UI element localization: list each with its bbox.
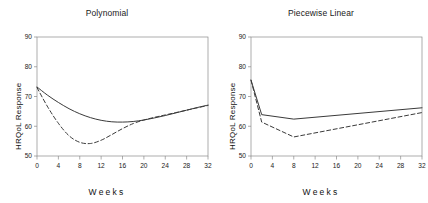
svg-text:12: 12 bbox=[97, 162, 105, 169]
svg-text:12: 12 bbox=[311, 162, 319, 169]
svg-text:16: 16 bbox=[119, 162, 127, 169]
panel-piecewise-linear: Piecewise Linear HRQoL Response 50607080… bbox=[214, 0, 428, 203]
svg-text:28: 28 bbox=[397, 162, 405, 169]
svg-text:4: 4 bbox=[271, 162, 275, 169]
svg-text:60: 60 bbox=[25, 123, 33, 130]
svg-text:20: 20 bbox=[140, 162, 148, 169]
axes-left: 5060708090048121620242832 bbox=[25, 33, 212, 169]
svg-text:32: 32 bbox=[418, 162, 426, 169]
svg-text:8: 8 bbox=[78, 162, 82, 169]
svg-text:16: 16 bbox=[333, 162, 341, 169]
svg-text:32: 32 bbox=[204, 162, 212, 169]
svg-text:90: 90 bbox=[239, 33, 247, 40]
svg-text:0: 0 bbox=[249, 162, 253, 169]
svg-text:80: 80 bbox=[25, 63, 33, 70]
figure-canvas: Polynomial HRQoL Response 50607080900481… bbox=[0, 0, 428, 203]
svg-text:24: 24 bbox=[376, 162, 384, 169]
plot-area-polynomial: 5060708090048121620242832 bbox=[0, 0, 214, 203]
svg-text:4: 4 bbox=[57, 162, 61, 169]
svg-text:70: 70 bbox=[25, 93, 33, 100]
svg-text:50: 50 bbox=[239, 152, 247, 159]
svg-text:50: 50 bbox=[25, 152, 33, 159]
svg-text:24: 24 bbox=[162, 162, 170, 169]
svg-text:60: 60 bbox=[239, 123, 247, 130]
svg-text:20: 20 bbox=[354, 162, 362, 169]
axes-right: 5060708090048121620242832 bbox=[239, 33, 426, 169]
panel-polynomial: Polynomial HRQoL Response 50607080900481… bbox=[0, 0, 214, 203]
x-axis-label-left: Weeks bbox=[0, 187, 214, 197]
svg-text:90: 90 bbox=[25, 33, 33, 40]
plot-area-piecewise-linear: 5060708090048121620242832 bbox=[214, 0, 428, 203]
svg-text:80: 80 bbox=[239, 63, 247, 70]
x-axis-label-right: Weeks bbox=[214, 187, 428, 197]
svg-text:0: 0 bbox=[35, 162, 39, 169]
svg-text:8: 8 bbox=[292, 162, 296, 169]
svg-text:70: 70 bbox=[239, 93, 247, 100]
svg-text:28: 28 bbox=[183, 162, 191, 169]
